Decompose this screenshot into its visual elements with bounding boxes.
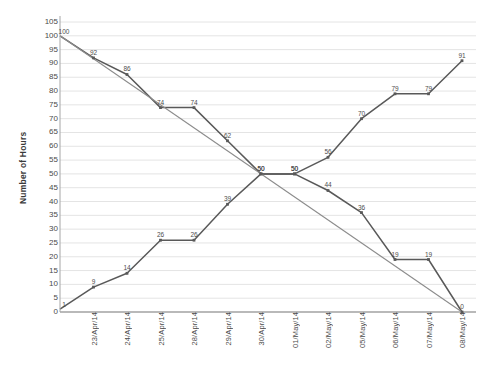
- data-point-marker: [427, 258, 430, 261]
- x-tick-label: 30/Apr/14: [257, 312, 266, 345]
- data-point-marker: [260, 173, 263, 176]
- y-tick-label: 105: [36, 18, 58, 26]
- data-point-marker: [159, 239, 162, 242]
- data-point-marker: [92, 57, 95, 60]
- data-point-marker: [327, 189, 330, 192]
- y-tick-label: 25: [36, 239, 58, 247]
- burndown-chart: Number of Hours 051015202530354045505560…: [0, 0, 504, 368]
- x-tick-label: 06/May/14: [391, 312, 400, 348]
- axis-lines: [60, 16, 476, 312]
- data-point-marker: [193, 239, 196, 242]
- data-point-marker: [226, 139, 229, 142]
- y-tick-label: 50: [36, 170, 58, 178]
- y-tick-label: 35: [36, 211, 58, 219]
- y-tick-label: 80: [36, 87, 58, 95]
- x-tick-label: 24/Apr/14: [123, 312, 132, 345]
- data-point-marker: [394, 92, 397, 95]
- y-tick-label: 40: [36, 198, 58, 206]
- data-point-marker: [327, 156, 330, 159]
- y-tick-label: 65: [36, 128, 58, 136]
- x-tick-label: 23/Apr/14: [90, 312, 99, 345]
- y-tick-label: 55: [36, 156, 58, 164]
- x-tick-label: 28/Apr/14: [190, 312, 199, 345]
- y-tick-label: 100: [36, 32, 58, 40]
- data-point-marker: [159, 106, 162, 109]
- x-axis-tick-labels: 23/Apr/1424/Apr/1425/Apr/1428/Apr/1429/A…: [0, 312, 504, 368]
- x-tick-label: 08/May/14: [458, 312, 467, 348]
- y-tick-label: 75: [36, 101, 58, 109]
- y-tick-label: 95: [36, 46, 58, 54]
- x-tick-label: 29/Apr/14: [224, 312, 233, 345]
- gridlines: [60, 22, 476, 312]
- y-tick-label: 30: [36, 225, 58, 233]
- data-point-marker: [126, 272, 129, 275]
- y-tick-label: 70: [36, 115, 58, 123]
- data-point-marker: [360, 211, 363, 214]
- data-point-marker: [193, 106, 196, 109]
- y-tick-label: 20: [36, 253, 58, 261]
- y-tick-label: 60: [36, 142, 58, 150]
- y-tick-label: 90: [36, 59, 58, 67]
- data-point-marker: [427, 92, 430, 95]
- data-point-marker: [226, 203, 229, 206]
- y-tick-label: 10: [36, 280, 58, 288]
- data-point-marker: [92, 286, 95, 289]
- series-line-completed-hours: [60, 61, 462, 310]
- y-tick-label: 85: [36, 73, 58, 81]
- x-tick-label: 05/May/14: [358, 312, 367, 348]
- data-point-marker: [461, 59, 464, 62]
- data-point-marker: [126, 73, 129, 76]
- x-tick-label: 07/May/14: [425, 312, 434, 348]
- data-point-marker: [293, 173, 296, 176]
- data-point-marker: [360, 117, 363, 120]
- x-tick-label: 01/May/14: [291, 312, 300, 348]
- x-tick-label: 02/May/14: [324, 312, 333, 348]
- x-tick-label: 25/Apr/14: [157, 312, 166, 345]
- y-tick-label: 15: [36, 267, 58, 275]
- y-tick-label: 45: [36, 184, 58, 192]
- y-tick-label: 5: [36, 294, 58, 302]
- data-point-marker: [394, 258, 397, 261]
